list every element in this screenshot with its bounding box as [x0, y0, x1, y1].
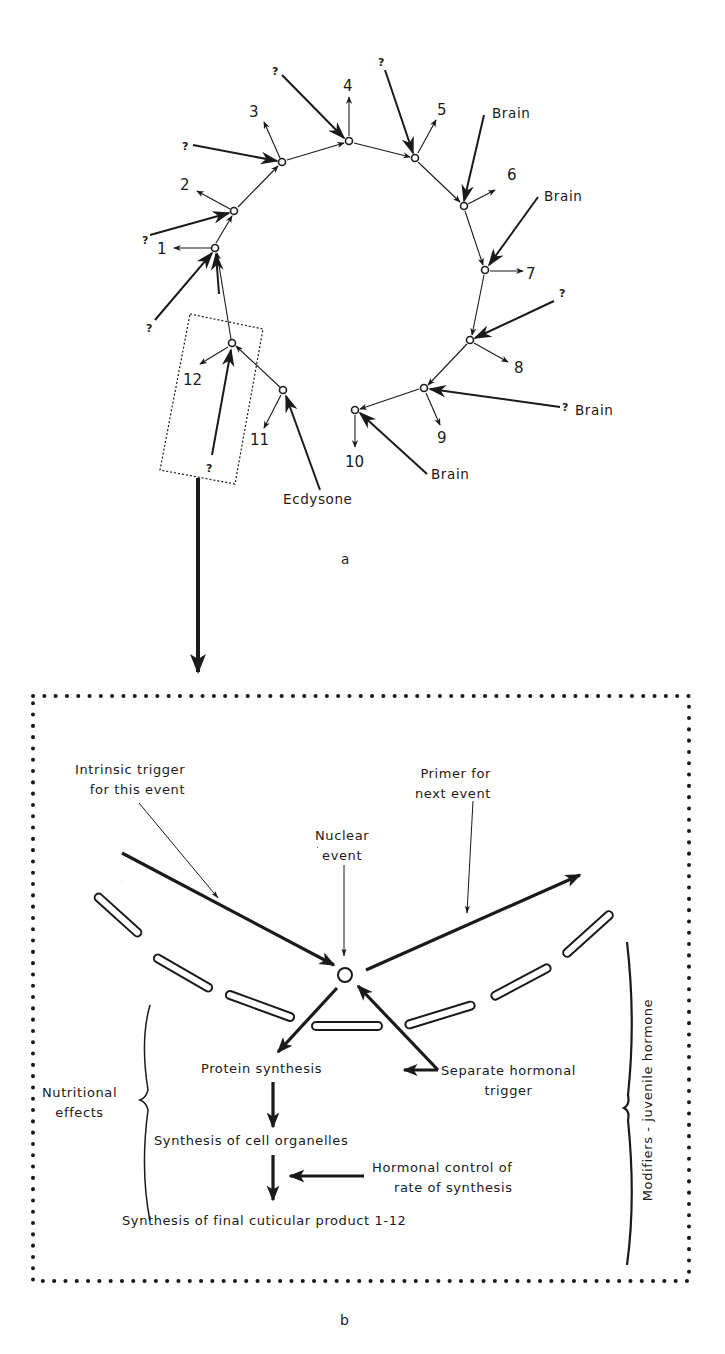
- intrinsic-trigger-label: Intrinsic trigger for this event: [75, 760, 185, 800]
- final-product-label: Synthesis of final cuticular product 1-1…: [122, 1213, 406, 1228]
- caption-b: b: [340, 1312, 350, 1328]
- primer-label: Primer for next event: [415, 764, 491, 804]
- organelles-label: Synthesis of cell organelles: [154, 1133, 348, 1148]
- part-b-labels: Intrinsic trigger for this event Primer …: [0, 0, 725, 1354]
- protein-synthesis-label: Protein synthesis: [201, 1061, 322, 1076]
- separate-trigger-label: Separate hormonal trigger: [441, 1061, 576, 1101]
- nutritional-label: Nutritional effects: [42, 1083, 117, 1123]
- hormonal-control-label: Hormonal control of rate of synthesis: [372, 1158, 513, 1198]
- nuclear-event-label: Nuclear event: [315, 826, 369, 866]
